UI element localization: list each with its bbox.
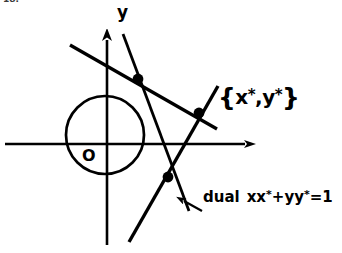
dual-xx-text: xx: [247, 188, 266, 206]
external-point-marker: [194, 108, 205, 119]
tangency-point-upper: [133, 74, 144, 85]
dual-line: [123, 34, 189, 211]
tangency-point-lower: [163, 172, 174, 183]
figure-canvas: 18. y O {x*,y*} dualxx*+yy*=1: [0, 0, 342, 253]
y-axis-label: y: [117, 4, 128, 21]
dual-plus-glyph: +: [272, 188, 285, 206]
external-point-label: {x*,y*}: [218, 85, 299, 110]
dual-equals-text: =1: [310, 188, 333, 206]
point-x-star-glyph: *: [248, 86, 255, 104]
brace-close-glyph: }: [282, 83, 299, 112]
dual-word-text: dual: [203, 188, 240, 206]
dual-yy-text: yy: [284, 188, 304, 206]
figure-svg: [0, 0, 342, 253]
point-x-glyph: x: [235, 85, 247, 109]
tangent-line-lower: [129, 86, 218, 242]
point-y-star-glyph: *: [275, 86, 282, 104]
origin-label: O: [82, 148, 96, 164]
page-number-artifact: 18.: [3, 0, 19, 4]
unit-circle: [66, 96, 144, 174]
dual-line-label: dualxx*+yy*=1: [203, 189, 333, 205]
brace-open-glyph: {: [218, 83, 235, 112]
point-y-glyph: y: [262, 85, 275, 109]
